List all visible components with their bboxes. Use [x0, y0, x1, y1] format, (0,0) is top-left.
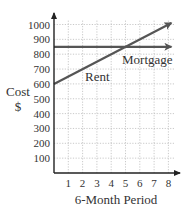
- x-tick-label: 2: [80, 177, 86, 189]
- x-tick-label: 5: [123, 177, 129, 189]
- y-tick-label: 600: [34, 78, 51, 90]
- y-tick-label: 300: [34, 122, 51, 134]
- y-axis-label-line1: Cost: [6, 84, 30, 99]
- y-tick-label: 200: [34, 137, 51, 149]
- x-tick-label: 6: [137, 177, 143, 189]
- y-axis-label-line2: $: [15, 99, 22, 114]
- x-axis-label: 6-Month Period: [75, 192, 158, 207]
- y-tick-label: 700: [34, 63, 51, 75]
- grid-lines: [54, 21, 174, 174]
- line-chart: 1002003004005006007008009001000 12345678…: [0, 0, 195, 214]
- y-tick-label: 1000: [28, 19, 51, 31]
- axes: [54, 13, 180, 173]
- y-axis-tick-labels: 1002003004005006007008009001000: [28, 19, 51, 165]
- x-axis-tick-labels: 12345678: [66, 177, 172, 189]
- y-tick-label: 900: [34, 33, 51, 45]
- series-labels: RentMortgage: [85, 52, 173, 84]
- x-tick-label: 1: [66, 177, 72, 189]
- x-tick-label: 7: [151, 177, 157, 189]
- series-label-mortgage: Mortgage: [122, 52, 173, 67]
- y-tick-label: 800: [34, 48, 51, 60]
- x-tick-label: 8: [166, 177, 172, 189]
- y-tick-label: 100: [34, 152, 51, 164]
- x-tick-label: 3: [94, 177, 100, 189]
- y-tick-label: 500: [34, 93, 51, 105]
- y-tick-label: 400: [34, 108, 51, 120]
- x-tick-label: 4: [108, 177, 114, 189]
- series-label-rent: Rent: [85, 69, 110, 84]
